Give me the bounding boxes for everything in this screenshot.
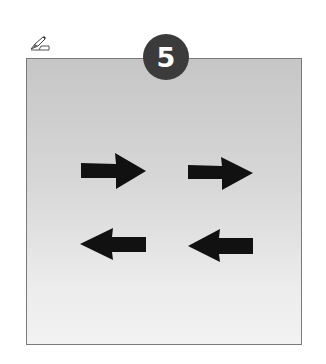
left-arrow-icon: [188, 229, 253, 262]
step-number-badge: 5: [143, 34, 189, 80]
step-number: 5: [157, 42, 176, 73]
right-arrow-icon: [188, 157, 253, 190]
right-arrow-icon: [81, 153, 146, 189]
left-arrow-icon: [80, 228, 146, 260]
